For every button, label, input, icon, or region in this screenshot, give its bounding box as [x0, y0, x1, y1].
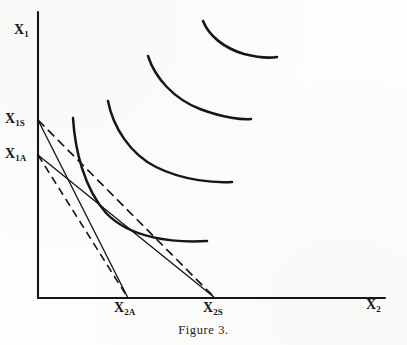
indifference-curve-4	[203, 21, 277, 58]
x-intercept-label-x2s: X2S	[203, 300, 223, 316]
figure-caption: Figure 3.	[0, 323, 407, 338]
y-intercept-label-x1a: X1A	[5, 146, 26, 162]
y-intercept-label-x1s: X1S	[5, 111, 25, 127]
budget-lines-dashed-group	[38, 120, 215, 298]
indifference-curves-group	[73, 21, 277, 241]
budget-line-a-dashed	[38, 155, 128, 298]
budget-line-s-solid	[38, 120, 128, 298]
axes-group	[38, 12, 385, 298]
tick-x1s	[37, 119, 39, 121]
indifference-curve-3	[148, 56, 251, 119]
y-axis-label: X1	[14, 22, 29, 38]
x-intercept-label-x2a: X2A	[114, 300, 135, 316]
tick-x2a	[127, 297, 129, 299]
x-axis-label: X2	[366, 297, 381, 313]
figure-page: X1 X1S X1A X2 X2A X2S Figure 3.	[0, 0, 407, 345]
budget-line-a-solid	[38, 155, 215, 298]
tick-x2s	[214, 297, 216, 299]
tick-x1a	[37, 154, 39, 156]
budget-line-s-dashed	[38, 120, 215, 298]
figure-canvas	[0, 0, 407, 345]
